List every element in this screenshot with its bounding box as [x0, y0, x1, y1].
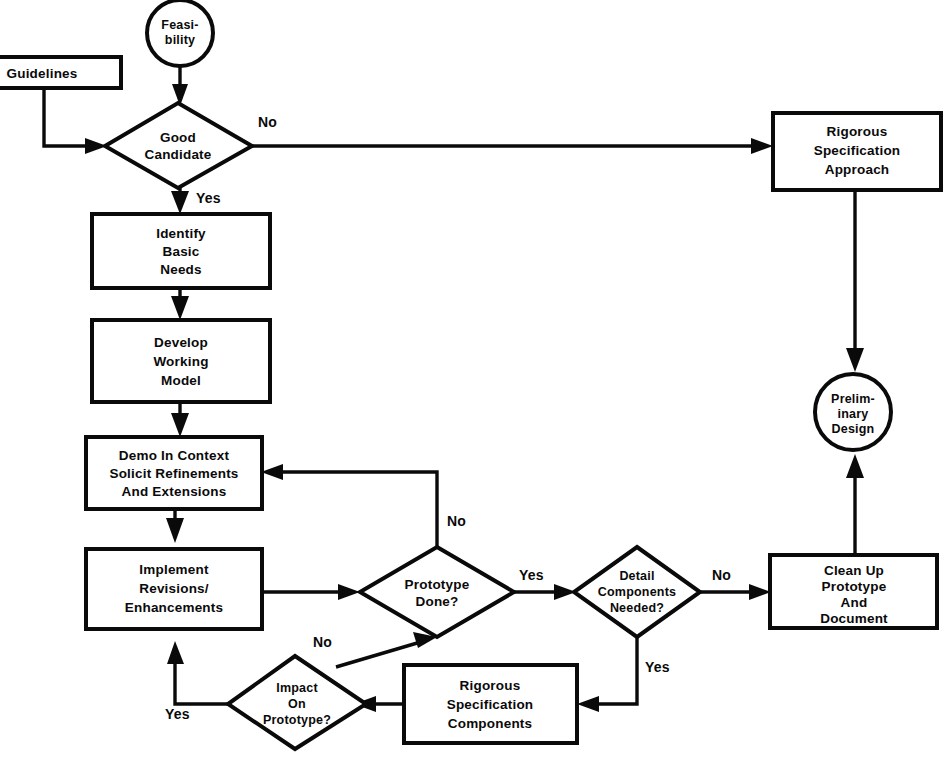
node-rigorous-spec-approach[interactable]: Rigorous Specification Approach [773, 113, 941, 190]
node-impact-on-prototype[interactable]: Impact On Prototype? [228, 656, 366, 749]
clean-up-prototype-label-line-2: Prototype [822, 579, 887, 594]
arrow-head-icon [846, 454, 864, 478]
edge-label-detail-components-yes: Yes [645, 659, 670, 675]
node-preliminary-design[interactable]: Prelim- inary Design [815, 374, 891, 450]
edge-cleanup-to-preliminary [846, 454, 864, 555]
implement-revisions-label-line-3: Enhancements [125, 600, 223, 615]
clean-up-prototype-label-line-4: Document [820, 611, 888, 626]
good-candidate-label-line-1: Good [160, 130, 196, 145]
develop-working-model-label-line-1: Develop [154, 335, 208, 350]
edge-spec-approach-to-preliminary [846, 190, 864, 372]
demo-in-context-label-line-2: Solicit Refinements [109, 466, 238, 481]
edge-label-good-candidate-no: No [258, 114, 277, 130]
edge-detail-components-yes [577, 637, 637, 712]
edge-label-impact-no: No [313, 634, 332, 650]
edge-impact-no [336, 632, 437, 667]
identify-basic-needs-label-line-1: Identify [156, 226, 206, 241]
rigorous-spec-approach-label-line-2: Specification [814, 143, 901, 158]
edge-implement-to-prototype-done [262, 584, 360, 600]
rigorous-spec-components-label-line-2: Specification [447, 697, 534, 712]
edge-label-prototype-done-yes: Yes [519, 567, 544, 583]
arrow-head-icon [846, 348, 864, 372]
edge-label-good-candidate-yes: Yes [196, 190, 221, 206]
feasibility-label-line-2: bility [165, 33, 195, 47]
edge-identify-to-develop [171, 288, 189, 320]
arrow-head-icon [171, 296, 189, 320]
develop-working-model-label-line-2: Working [153, 354, 208, 369]
arrow-head-icon [166, 518, 184, 543]
node-good-candidate[interactable]: Good Candidate [105, 103, 252, 188]
flowchart-canvas: Rigorous Specification Approach --> Iden… [0, 0, 947, 757]
edge-guidelines-to-good-candidate [44, 88, 107, 154]
preliminary-design-label-line-2: inary [838, 407, 869, 421]
node-identify-basic-needs[interactable]: Identify Basic Needs [92, 214, 270, 288]
node-feasibility[interactable]: Feasi- bility [147, 0, 213, 66]
identify-basic-needs-label-line-2: Basic [162, 244, 199, 259]
prototype-done-label-line-2: Done? [416, 594, 459, 609]
impact-on-prototype-label-line-3: Prototype? [263, 713, 331, 727]
edge-impact-yes [167, 641, 228, 704]
edge-detail-components-no [700, 584, 771, 600]
arrow-head-icon [749, 584, 771, 600]
develop-working-model-label-line-3: Model [161, 373, 201, 388]
node-rigorous-spec-components[interactable]: Rigorous Specification Components [404, 665, 577, 743]
arrow-head-icon [577, 696, 599, 712]
feasibility-label-line-1: Feasi- [161, 18, 198, 32]
edge-label-prototype-done-no: No [447, 513, 466, 529]
node-guidelines[interactable]: Guidelines [0, 57, 121, 88]
edge-demo-to-implement [166, 509, 184, 543]
guidelines-label: Guidelines [6, 66, 77, 81]
demo-in-context-label-line-1: Demo In Context [119, 448, 230, 463]
demo-in-context-label-line-3: And Extensions [122, 484, 227, 499]
edge-prototype-done-no [261, 464, 437, 550]
flowchart-svg: Rigorous Specification Approach --> Iden… [0, 0, 947, 757]
preliminary-design-label-line-1: Prelim- [831, 392, 875, 406]
arrow-head-icon [171, 413, 189, 437]
clean-up-prototype-label-line-3: And [841, 595, 868, 610]
rigorous-spec-components-label-line-1: Rigorous [460, 678, 521, 693]
identify-basic-needs-label-line-3: Needs [160, 262, 202, 277]
good-candidate-label-line-2: Candidate [144, 147, 211, 162]
node-prototype-done[interactable]: Prototype Done? [360, 547, 514, 637]
implement-revisions-label-line-1: Implement [139, 562, 209, 577]
preliminary-design-label-line-3: Design [832, 422, 875, 436]
edge-good-candidate-yes [171, 188, 189, 214]
arrow-head-icon [167, 641, 184, 664]
edge-develop-to-demo [171, 402, 189, 437]
node-detail-components-needed[interactable]: Detail Components Needed? [574, 547, 700, 637]
edge-label-detail-components-no: No [712, 567, 731, 583]
rigorous-spec-components-label-line-3: Components [448, 716, 533, 731]
implement-revisions-label-line-2: Revisions/ [139, 581, 209, 596]
good-candidate-diamond [105, 103, 252, 188]
node-demo-in-context[interactable]: Demo In Context Solicit Refinements And … [86, 437, 262, 509]
node-develop-working-model[interactable]: Develop Working Model [92, 320, 270, 402]
arrow-head-icon [261, 464, 283, 480]
rigorous-spec-approach-label-line-1: Rigorous [827, 124, 888, 139]
detail-components-needed-label-line-3: Needed? [610, 601, 664, 615]
clean-up-prototype-label-line-1: Clean Up [824, 563, 884, 578]
prototype-done-label-line-1: Prototype [405, 577, 470, 592]
node-implement-revisions[interactable]: Implement Revisions/ Enhancements [86, 549, 262, 629]
impact-on-prototype-label-line-1: Impact [276, 681, 318, 695]
impact-on-prototype-label-line-2: On [288, 697, 306, 711]
rigorous-spec-approach-label-line-3: Approach [825, 162, 890, 177]
edge-prototype-done-yes [514, 584, 576, 600]
edge-label-impact-yes: Yes [165, 706, 190, 722]
arrow-head-icon [751, 138, 773, 154]
detail-components-needed-label-line-1: Detail [619, 569, 654, 583]
prototype-done-diamond [360, 547, 514, 637]
edge-feasibility-to-good-candidate [172, 66, 188, 106]
detail-components-needed-label-line-2: Components [598, 585, 676, 599]
node-clean-up-prototype[interactable]: Clean Up Prototype And Document [770, 555, 937, 628]
edge-good-candidate-no [252, 138, 773, 154]
arrow-head-icon [171, 191, 189, 214]
